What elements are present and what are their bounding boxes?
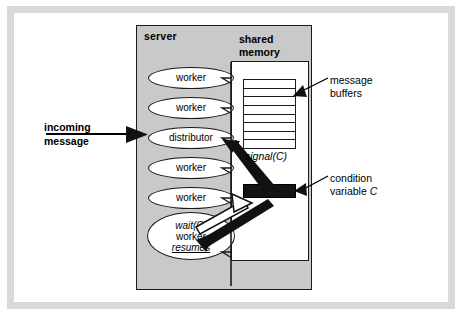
process-worker-3: worker <box>148 157 234 179</box>
message-buffer-row <box>244 89 295 98</box>
incoming-message-label: incoming message <box>44 120 118 148</box>
condition-variable-bar <box>243 184 296 198</box>
process-worker-1: worker <box>148 67 234 89</box>
message-buffers-annotation-line1: message <box>330 74 373 86</box>
process-label: worker <box>176 102 206 114</box>
message-buffer-row <box>244 115 295 124</box>
message-buffer-row <box>244 132 295 141</box>
incoming-message-line2: message <box>44 135 89 147</box>
process-worker-2: worker <box>148 97 234 119</box>
message-buffer-row <box>244 106 295 115</box>
shared-memory-label-line2: memory <box>239 46 280 58</box>
message-buffer-row <box>244 123 295 132</box>
message-buffers-annotation: message buffers <box>330 74 440 99</box>
waiting-worker-label: worker <box>176 231 206 242</box>
process-label: worker <box>176 72 206 84</box>
condition-variable-annotation: condition variable C <box>330 172 448 197</box>
process-distributor: distributor <box>148 127 234 149</box>
process-label: worker <box>176 192 206 204</box>
condition-variable-annotation-line2: variable <box>330 185 370 197</box>
shared-memory-label-line1: shared <box>239 33 273 45</box>
message-buffer-row <box>244 80 295 89</box>
process-waiting-worker: wait(C) worker resumes <box>147 212 235 260</box>
process-worker-4: worker <box>148 187 234 209</box>
message-buffers-stack <box>243 79 296 149</box>
incoming-message-line1: incoming <box>44 121 91 133</box>
process-label: distributor <box>169 132 213 144</box>
message-buffers-annotation-line2: buffers <box>330 87 362 99</box>
message-buffer-row <box>244 140 295 148</box>
condition-variable-name: C <box>370 185 378 197</box>
waiting-worker-wait-call: wait(C) <box>175 220 207 231</box>
condition-variable-annotation-line1: condition <box>330 172 372 184</box>
server-label: server <box>144 30 177 42</box>
message-buffer-row <box>244 97 295 106</box>
shared-memory-label: shared memory <box>239 33 311 58</box>
diagram-canvas: server shared memory worker worker distr… <box>0 0 463 323</box>
waiting-worker-resumes: resumes <box>172 242 210 253</box>
process-label: worker <box>176 162 206 174</box>
